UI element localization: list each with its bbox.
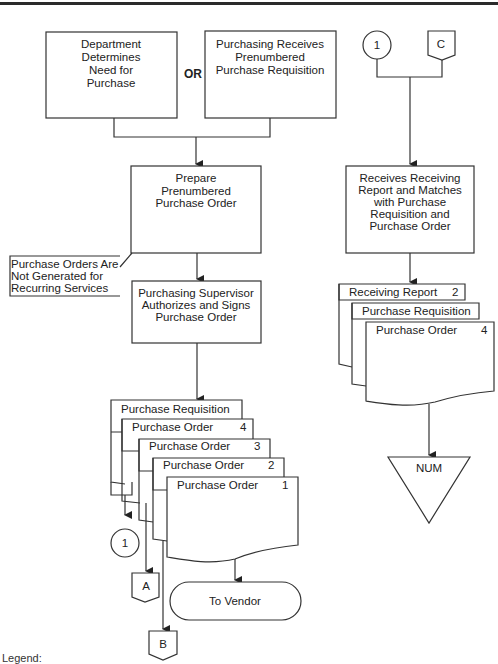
offpage-connector-c: C	[428, 31, 455, 60]
document-label: Purchase Order	[376, 324, 457, 336]
process-text: Determines	[82, 51, 141, 63]
document-copy-number: 2	[268, 459, 274, 471]
terminal-to-vendor: To Vendor	[170, 582, 301, 620]
process-text: Purchase	[87, 77, 136, 89]
process-text: Report and Matches	[358, 184, 462, 196]
annotation-recurring-services: Purchase Orders Are Not Generated for Re…	[10, 253, 132, 296]
document-stack-right: Receiving Report 2 Purchase Requisition …	[339, 284, 494, 405]
connector-label: A	[142, 580, 150, 592]
document-copy-number: 1	[282, 479, 288, 491]
process-text: Purchase Requisition	[216, 64, 325, 76]
annotation-text: Recurring Services	[11, 282, 108, 294]
or-label: OR	[184, 67, 202, 81]
document-label: Purchase Order	[177, 479, 258, 491]
onpage-connector-1-left: 1	[111, 529, 139, 557]
process-text: Prepare	[176, 172, 217, 184]
connector-label: B	[159, 638, 167, 650]
process-text: Purchase Order	[155, 197, 236, 209]
process-prepare-purchase-order: Prepare Prenumbered Purchase Order	[131, 166, 261, 253]
process-receives-matches: Receives Receiving Report and Matches wi…	[346, 166, 474, 253]
annotation-text: Not Generated for	[11, 270, 103, 282]
document-copy-number: 4	[240, 421, 247, 433]
connector-label: 1	[374, 39, 380, 51]
offpage-connector-b: B	[149, 631, 177, 660]
process-text: Requisition and	[370, 208, 449, 220]
document-label: Purchase Order	[163, 459, 244, 471]
process-text: Purchasing Receives	[216, 38, 324, 50]
process-text: Purchasing Supervisor	[138, 287, 254, 299]
document-stack-left: Purchase Requisition Purchase Order 4 Pu…	[111, 400, 298, 562]
merge-line	[114, 118, 270, 137]
connector-label: C	[437, 38, 445, 50]
terminal-label: To Vendor	[209, 595, 261, 607]
process-text: with Purchase	[373, 196, 446, 208]
document-copy-number: 4	[481, 324, 488, 336]
document-label: Purchase Requisition	[362, 305, 471, 317]
process-supervisor-authorizes: Purchasing Supervisor Authorizes and Sig…	[132, 281, 261, 343]
process-department-determines: Department Determines Need for Purchase	[46, 32, 177, 118]
legend-label: Legend:	[2, 652, 42, 664]
document-label: Purchase Requisition	[121, 403, 230, 415]
process-text: Prenumbered	[161, 185, 231, 197]
process-text: Need for	[89, 64, 133, 76]
file-label: NUM	[416, 462, 442, 474]
document-label: Purchase Order	[132, 421, 213, 433]
connector-label: 1	[122, 537, 128, 549]
document-label: Purchase Order	[149, 440, 230, 452]
process-text: Receives Receiving	[360, 172, 461, 184]
document-copy-number: 2	[452, 286, 458, 298]
document-copy-number: 3	[254, 440, 260, 452]
process-text: Purchase Order	[155, 311, 236, 323]
process-text: Department	[81, 38, 142, 50]
offpage-connector-a: A	[132, 573, 159, 602]
merge-line	[377, 59, 442, 77]
process-text: Authorizes and Signs	[142, 299, 251, 311]
annotation-text: Purchase Orders Are	[11, 258, 118, 270]
onpage-connector-1-right: 1	[363, 31, 391, 59]
process-text: Purchase Order	[369, 220, 450, 232]
process-text: Prenumbered	[235, 51, 305, 63]
document-label: Receiving Report	[349, 286, 438, 298]
file-num: NUM	[388, 457, 470, 523]
process-purchasing-receives: Purchasing Receives Prenumbered Purchase…	[205, 31, 336, 118]
